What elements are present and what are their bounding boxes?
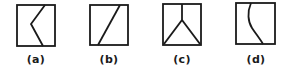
panel-d-label: (d) (236, 53, 276, 66)
panel-a-square (17, 5, 55, 46)
panel-d-figure (236, 3, 275, 44)
panel-a-figure (17, 5, 55, 46)
panel-c-label: (c) (162, 53, 202, 66)
panel-a-label: (a) (16, 53, 56, 66)
panel-c-figure (163, 4, 201, 45)
panel-d-square (236, 3, 275, 44)
panel-d-curved-line (248, 3, 263, 44)
panel-b-label: (b) (89, 53, 129, 66)
panel-b-figure (90, 5, 128, 45)
panel-c-y-right-branch (182, 20, 200, 44)
panel-a-zigzag-line (31, 5, 45, 46)
panel-c-y-left-branch (164, 20, 182, 44)
panel-b-diagonal-line (98, 5, 120, 45)
